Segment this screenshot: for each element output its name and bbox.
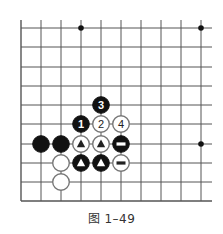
white-stone [53,174,70,191]
white-stone [113,155,130,172]
black-stone: 1 [73,116,90,133]
move-number: 2 [98,118,104,130]
figure-caption: 图 1–49 [0,209,223,226]
black-stone [53,136,70,153]
star-point-icon [198,141,204,147]
move-number: 3 [98,99,104,111]
white-stone [73,136,90,153]
bar-mark-icon [117,161,126,164]
white-stone [93,136,110,153]
move-number: 4 [118,118,124,130]
white-stone: 4 [113,116,130,133]
white-stone: 2 [93,116,110,133]
move-number: 1 [78,118,84,130]
black-stone [73,155,90,172]
white-stone [53,155,70,172]
black-stone [93,155,110,172]
black-stone: 3 [93,97,110,114]
bar-mark-icon [117,142,126,145]
star-point-icon [78,25,84,31]
star-point-icon [198,25,204,31]
black-stone [113,136,130,153]
go-board: 1234 [0,0,223,234]
black-stone [33,136,50,153]
